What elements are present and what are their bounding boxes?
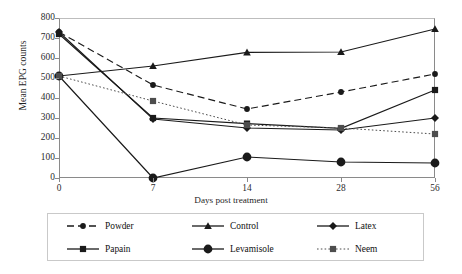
legend-item-latex[interactable]: Latex [298, 220, 423, 232]
legend-item-levamisole[interactable]: Levamisole [173, 243, 298, 255]
chart-legend: PowderControlLatexPapainLevamisoleNeem [47, 213, 424, 261]
x-tick-label: 28 [321, 183, 361, 193]
legend-item-neem[interactable]: Neem [298, 243, 423, 255]
y-tick-mark [55, 178, 59, 179]
data-point [150, 82, 156, 88]
data-point [244, 106, 250, 112]
x-tick-mark [435, 178, 436, 182]
legend-swatch-control-icon [191, 220, 225, 232]
y-tick-mark [55, 38, 59, 39]
data-point [431, 114, 439, 122]
x-tick-mark [341, 178, 342, 182]
legend-item-papain[interactable]: Papain [48, 243, 173, 255]
x-tick-mark [153, 178, 154, 182]
legend-swatch-latex-icon [316, 220, 350, 232]
data-point [432, 71, 438, 77]
data-point [150, 98, 156, 104]
legend-swatch-papain-icon [66, 243, 100, 255]
plot-area: Mean EPG counts 800700600500400300200100… [0, 0, 462, 205]
legend-label: Papain [105, 244, 131, 254]
y-tick-mark [55, 158, 59, 159]
data-point [432, 87, 438, 93]
series-papain [56, 31, 438, 132]
data-point [337, 158, 346, 167]
series-line [59, 32, 435, 130]
y-tick-mark [55, 78, 59, 79]
x-tick-mark [59, 178, 60, 182]
legend-label: Latex [355, 221, 376, 231]
y-tick-mark [55, 58, 59, 59]
series-control [55, 25, 439, 79]
data-point [338, 89, 344, 95]
y-tick-mark [55, 138, 59, 139]
data-point [56, 31, 62, 37]
y-tick-mark [55, 118, 59, 119]
legend-item-powder[interactable]: Powder [48, 220, 173, 232]
y-tick-mark [55, 18, 59, 19]
legend-swatch-levamisole-icon [191, 243, 225, 255]
legend-label: Neem [355, 244, 377, 254]
legend-grid: PowderControlLatexPapainLevamisoleNeem [48, 214, 423, 260]
x-tick-label: 7 [133, 183, 173, 193]
data-point [431, 159, 440, 168]
legend-item-control[interactable]: Control [173, 220, 298, 232]
x-axis-title: Days post treatment [0, 195, 462, 205]
chart-series-layer [0, 0, 462, 205]
data-point [338, 125, 344, 131]
legend-label: Control [230, 221, 259, 231]
chart-page: Mean EPG counts 800700600500400300200100… [0, 0, 462, 274]
legend-label: Powder [105, 221, 134, 231]
legend-swatch-powder-icon [66, 220, 100, 232]
x-tick-mark [247, 178, 248, 182]
x-tick-label: 14 [227, 183, 267, 193]
series-line [59, 34, 435, 128]
data-point [244, 122, 250, 128]
legend-swatch-neem-icon [316, 243, 350, 255]
series-latex [55, 28, 439, 134]
data-point [150, 115, 156, 121]
y-tick-mark [55, 98, 59, 99]
legend-label: Levamisole [230, 244, 274, 254]
data-point [431, 25, 439, 32]
data-point [432, 131, 438, 137]
data-point [243, 153, 252, 162]
x-tick-label: 0 [39, 183, 79, 193]
x-tick-label: 56 [415, 183, 455, 193]
